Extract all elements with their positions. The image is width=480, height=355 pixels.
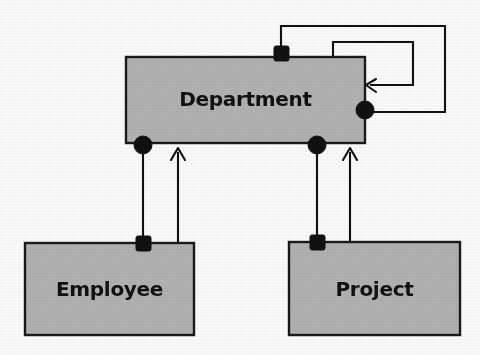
filled-square-marker-department-top[interactable] [274,46,289,61]
filled-circle-marker-department-bottom-left[interactable] [134,136,152,154]
entity-department[interactable]: Department [126,57,365,143]
entity-department-label: Department [179,87,312,111]
filled-circle-marker-department-right[interactable] [356,101,374,119]
entity-project-label: Project [336,277,415,301]
entity-employee-label: Employee [56,277,163,301]
diagram-svg: Department Employee Project [0,0,480,355]
diagram-canvas: Department Employee Project [0,0,480,355]
filled-square-marker-employee-top[interactable] [136,236,151,251]
entity-project[interactable]: Project [289,242,460,335]
connector-project-department-arrow[interactable] [343,148,357,243]
filled-circle-marker-department-bottom-right[interactable] [308,136,326,154]
filled-square-marker-project-top[interactable] [310,235,325,250]
entity-employee[interactable]: Employee [25,243,194,335]
connector-employee-department-arrow[interactable] [171,148,185,244]
